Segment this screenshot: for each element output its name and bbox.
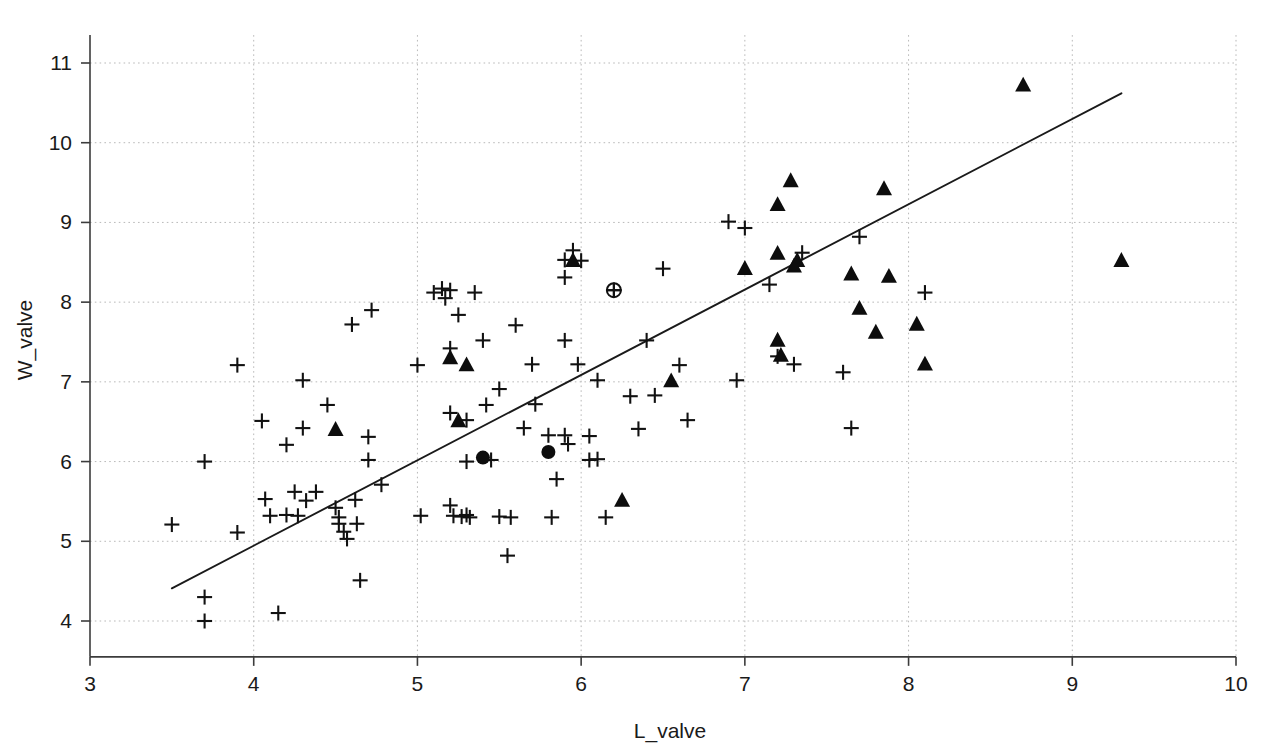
y-tick-label: 9 bbox=[60, 210, 72, 233]
marker-plus bbox=[230, 358, 245, 373]
x-tick-label: 4 bbox=[248, 672, 260, 695]
marker-plus bbox=[340, 531, 355, 546]
y-tick-label: 11 bbox=[50, 51, 72, 74]
marker-plus bbox=[349, 516, 364, 531]
x-tick-label: 10 bbox=[1224, 672, 1247, 695]
marker-triangle bbox=[459, 356, 475, 371]
marker-plus bbox=[479, 397, 494, 412]
marker-circle-plus bbox=[606, 283, 621, 298]
marker-plus bbox=[263, 508, 278, 523]
marker-plus bbox=[308, 484, 323, 499]
marker-plus bbox=[549, 472, 564, 487]
marker-plus bbox=[721, 214, 736, 229]
series-filled-circle-markers bbox=[476, 445, 555, 465]
marker-plus bbox=[503, 510, 518, 525]
x-tick-label: 3 bbox=[84, 672, 96, 695]
marker-plus bbox=[528, 397, 543, 412]
marker-triangle bbox=[783, 172, 799, 187]
axes bbox=[81, 35, 1236, 666]
marker-plus bbox=[656, 261, 671, 276]
marker-triangle bbox=[770, 332, 786, 347]
marker-plus bbox=[353, 573, 368, 588]
marker-triangle bbox=[663, 372, 679, 387]
marker-plus bbox=[459, 454, 474, 469]
data-markers bbox=[164, 77, 1129, 629]
marker-plus bbox=[680, 413, 695, 428]
marker-filled-circle bbox=[541, 445, 555, 459]
marker-plus bbox=[361, 429, 376, 444]
marker-plus bbox=[557, 428, 572, 443]
marker-plus bbox=[258, 492, 273, 507]
marker-plus bbox=[462, 510, 477, 525]
marker-plus bbox=[557, 333, 572, 348]
series-triangle-markers bbox=[328, 77, 1130, 507]
y-tick-label: 6 bbox=[60, 450, 72, 473]
marker-plus bbox=[475, 333, 490, 348]
marker-plus bbox=[631, 421, 646, 436]
marker-triangle bbox=[909, 316, 925, 331]
marker-triangle bbox=[770, 245, 786, 260]
marker-plus bbox=[844, 421, 859, 436]
marker-plus bbox=[290, 508, 305, 523]
marker-plus bbox=[623, 389, 638, 404]
marker-plus bbox=[197, 590, 212, 605]
marker-plus bbox=[361, 452, 376, 467]
marker-triangle bbox=[773, 347, 789, 362]
marker-plus bbox=[672, 358, 687, 373]
marker-plus bbox=[590, 452, 605, 467]
marker-triangle bbox=[614, 492, 630, 507]
marker-triangle bbox=[737, 260, 753, 275]
marker-plus bbox=[598, 510, 613, 525]
marker-plus bbox=[254, 413, 269, 428]
y-tick-label: 5 bbox=[60, 529, 72, 552]
marker-triangle bbox=[876, 180, 892, 195]
marker-plus bbox=[500, 548, 515, 563]
marker-plus bbox=[164, 517, 179, 532]
marker-plus bbox=[544, 510, 559, 525]
marker-plus bbox=[786, 357, 801, 372]
marker-plus bbox=[467, 285, 482, 300]
x-tick-label: 5 bbox=[412, 672, 424, 695]
marker-plus bbox=[729, 373, 744, 388]
marker-triangle bbox=[868, 324, 884, 339]
marker-plus bbox=[344, 317, 359, 332]
marker-plus bbox=[320, 397, 335, 412]
marker-triangle bbox=[1113, 252, 1129, 267]
marker-plus bbox=[836, 365, 851, 380]
marker-plus bbox=[434, 281, 449, 296]
marker-plus bbox=[557, 270, 572, 285]
marker-plus bbox=[541, 428, 556, 443]
marker-plus bbox=[561, 437, 576, 452]
x-tick-label: 9 bbox=[1066, 672, 1078, 695]
y-tick-label: 8 bbox=[60, 290, 72, 313]
marker-triangle bbox=[881, 268, 897, 283]
y-tick-label: 10 bbox=[49, 131, 72, 154]
marker-plus bbox=[647, 388, 662, 403]
series-circle-plus-markers bbox=[606, 283, 621, 298]
marker-plus bbox=[516, 421, 531, 436]
x-tick-label: 6 bbox=[575, 672, 587, 695]
x-tick-label: 7 bbox=[739, 672, 751, 695]
marker-filled-circle bbox=[476, 451, 490, 465]
marker-triangle bbox=[1015, 77, 1031, 92]
marker-plus bbox=[364, 303, 379, 318]
marker-plus bbox=[271, 606, 286, 621]
marker-triangle bbox=[917, 356, 933, 371]
scatter-plot-figure: 3456789104567891011 L_valve W_valve bbox=[0, 0, 1270, 750]
series-plus-markers bbox=[164, 214, 932, 628]
marker-plus bbox=[295, 421, 310, 436]
y-tick-label: 4 bbox=[60, 609, 72, 632]
marker-plus bbox=[443, 498, 458, 513]
marker-plus bbox=[197, 454, 212, 469]
marker-plus bbox=[582, 429, 597, 444]
marker-plus bbox=[451, 307, 466, 322]
marker-triangle bbox=[770, 196, 786, 211]
marker-plus bbox=[279, 437, 294, 452]
marker-triangle bbox=[843, 266, 859, 281]
marker-plus bbox=[590, 373, 605, 388]
marker-plus bbox=[230, 525, 245, 540]
marker-plus bbox=[374, 477, 389, 492]
marker-plus bbox=[299, 493, 314, 508]
marker-plus bbox=[508, 318, 523, 333]
x-tick-label: 8 bbox=[903, 672, 915, 695]
